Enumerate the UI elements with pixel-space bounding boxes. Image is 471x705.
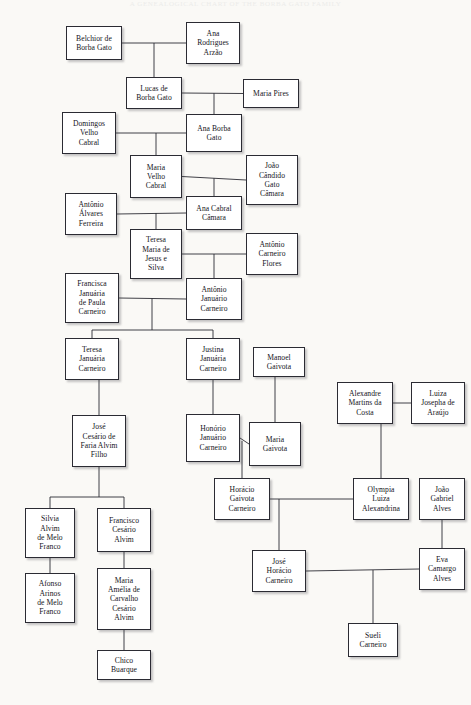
person-node-ana_rodrigues: AnaRodriguesArzão [186,22,240,64]
person-name-label: JoãoCândidoGatoCâmara [249,161,295,198]
connector [306,569,419,571]
person-node-eva_camargo: EvaCamargoAlves [419,548,465,590]
person-name-label: JustinaJanuáriaCarneiro [189,345,237,373]
person-name-label: SilviaAlvimde MeloFranco [28,514,72,551]
connector [119,298,186,299]
person-node-antonio_januario: AntônioJanuárioCarneiro [186,278,242,320]
person-node-justina: JustinaJanuáriaCarneiro [186,338,240,380]
person-node-maria_velho: MariaVelhoCabral [130,155,182,198]
person-name-label: HonórioJanuárioCarneiro [189,424,237,452]
person-name-label: OlympiaLuizaAlexandrina [356,485,406,513]
person-name-label: AntônioCarneiroFlores [249,240,295,268]
person-name-label: EvaCamargoAlves [422,555,462,583]
person-node-olympia: OlympiaLuizaAlexandrina [353,478,409,520]
person-node-maria_amelia: MariaAmélia deCarvalhoCesárioAlvim [97,568,151,630]
person-node-francisca: FranciscaJanuáriade PaulaCarneiro [65,273,119,323]
person-node-ana_cabral: Ana CabralCâmara [186,196,242,230]
person-name-label: MariaAmélia deCarvalhoCesárioAlvim [100,576,148,622]
person-name-label: Ana BorbaGato [189,124,239,143]
person-node-joao_gabriel: JoãoGabrielAlves [419,478,465,520]
person-name-label: JoãoGabrielAlves [422,485,462,513]
person-node-honorio: HonórioJanuárioCarneiro [186,414,240,462]
person-node-maria_gaivota: MariaGaivota [249,422,301,466]
person-name-label: Maria Pires [246,89,296,98]
person-node-ana_borba: Ana BorbaGato [186,114,242,152]
connector [182,93,243,94]
person-name-label: AfonsoArinosde MeloFranco [28,579,72,616]
person-name-label: AlexandreMartins daCosta [340,389,390,417]
person-node-domingos: DomingosVelhoCabral [62,112,116,154]
person-name-label: AntônioJanuárioCarneiro [189,285,239,313]
diagram-canvas: Belchior deBorba GatoAnaRodriguesArzãoLu… [0,0,471,705]
person-node-teresa_januaria: TeresaJanuáriaCarneiro [65,338,119,380]
person-node-horacio: HorácioGaivotaCarneiro [214,478,270,520]
person-name-label: DomingosVelhoCabral [65,119,113,147]
person-name-label: AntônioÁlvaresFerreira [68,200,114,228]
person-name-label: JoséHorácioCarneiro [255,557,303,585]
person-node-jose_horacio: JoséHorácioCarneiro [252,550,306,592]
person-name-label: JoséCesário deFaria AlvimFilho [75,422,123,459]
person-name-label: MariaGaivota [252,435,298,454]
person-name-label: TeresaMaria deJesus eSilva [133,235,179,272]
person-node-francisco_alvim: FranciscoCesárioAlvim [97,508,151,552]
genealogy-chart-page: A GENEALOGICAL CHART OF THE BORBA GATO F… [0,0,471,705]
person-node-manoel_gaivota: ManoelGaivota [253,347,305,377]
connector [240,438,249,444]
person-name-label: MariaVelhoCabral [133,163,179,191]
person-name-label: Ana CabralCâmara [189,204,239,223]
person-node-afonso: AfonsoArinosde MeloFranco [25,573,75,623]
person-name-label: ManoelGaivota [256,353,302,372]
person-node-lucas: Lucas deBorba Gato [126,77,182,109]
person-name-label: FranciscaJanuáriade PaulaCarneiro [68,279,116,316]
person-name-label: ChicoBuarque [100,656,148,675]
person-node-sueli: SueliCarneiro [348,623,398,657]
person-node-maria_pires: Maria Pires [243,79,299,108]
person-name-label: HorácioGaivotaCarneiro [217,485,267,513]
person-name-label: Lucas deBorba Gato [129,84,179,103]
person-name-label: LuizaJosepha deAraújo [414,389,462,417]
person-node-luiza_josepha: LuizaJosepha deAraújo [411,382,465,424]
person-name-label: AnaRodriguesArzão [189,29,237,57]
person-node-teresa_maria: TeresaMaria deJesus eSilva [130,229,182,279]
person-node-joao_candido: JoãoCândidoGatoCâmara [246,155,298,205]
connector [182,177,246,181]
person-node-silvia: SilviaAlvimde MeloFranco [25,508,75,558]
person-name-label: SueliCarneiro [351,631,395,650]
person-node-antonio_alvares: AntônioÁlvaresFerreira [65,193,117,235]
person-node-antonio_flores: AntônioCarneiroFlores [246,233,298,275]
person-name-label: FranciscoCesárioAlvim [100,516,148,544]
person-name-label: TeresaJanuáriaCarneiro [68,345,116,373]
person-node-chico: ChicoBuarque [97,650,151,680]
person-name-label: Belchior deBorba Gato [69,34,119,53]
connector [117,213,186,214]
person-node-jose_cesario: JoséCesário deFaria AlvimFilho [72,415,126,467]
person-node-belchior: Belchior deBorba Gato [66,26,122,60]
person-node-alexandre: AlexandreMartins daCosta [337,382,393,424]
